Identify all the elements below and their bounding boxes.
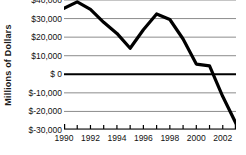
y-axis-tick-label: $40,000	[14, 0, 62, 5]
x-axis-tick-label: 2000	[187, 133, 206, 143]
plot-svg	[64, 0, 236, 130]
line-chart: Millions of Dollars $40,000$30,000$20,00…	[0, 0, 246, 155]
x-axis-tick-label: 1996	[134, 133, 153, 143]
data-series	[64, 2, 236, 124]
x-axis	[64, 124, 236, 129]
x-axis-tick-label: 1990	[55, 133, 74, 143]
series-line	[64, 2, 236, 124]
y-axis-tick-label: $-10,000	[14, 88, 62, 97]
plot-area	[64, 0, 236, 130]
x-axis-tick-label: 1998	[160, 133, 179, 143]
y-axis-tick-labels: $40,000$30,000$20,000$10,000$ 0$-10,000$…	[14, 0, 64, 130]
x-axis-tick-label: 1992	[81, 133, 100, 143]
y-axis-tick-label: $20,000	[14, 33, 62, 42]
y-axis-tick-label: $ 0	[14, 70, 62, 79]
y-axis-tick-label: $-20,000	[14, 107, 62, 116]
y-axis-tick-label: $30,000	[14, 14, 62, 23]
x-axis-tick-label: 2002	[213, 133, 232, 143]
x-axis-tick-label: 1994	[107, 133, 126, 143]
y-axis-tick-label: $10,000	[14, 51, 62, 60]
x-axis-tick-labels: 1990199219941996199820002002	[64, 131, 236, 147]
y-axis-title-text: Millions of Dollars	[3, 24, 13, 105]
